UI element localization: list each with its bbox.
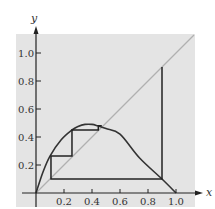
y-tick-label: 0.6 bbox=[18, 104, 34, 115]
y-tick-label: 1.0 bbox=[18, 48, 34, 59]
x-axis-label: x bbox=[206, 186, 213, 199]
y-tick-label: 0.2 bbox=[18, 160, 34, 171]
x-tick-label: 0.6 bbox=[112, 196, 128, 207]
x-axis-arrow-icon bbox=[195, 191, 203, 196]
cobweb-chart: y x 0.2 0.4 0.6 0.8 1.0 0.2 0.4 0.6 0.8 … bbox=[0, 0, 215, 209]
y-tick-label: 0.8 bbox=[18, 76, 34, 87]
plot-background bbox=[16, 34, 195, 207]
x-tick-label: 1.0 bbox=[168, 196, 184, 207]
x-tick-label: 0.4 bbox=[84, 196, 100, 207]
y-tick-label: 0.4 bbox=[18, 132, 34, 143]
y-axis-label: y bbox=[30, 12, 38, 25]
x-tick-label: 0.8 bbox=[140, 196, 156, 207]
y-axis-arrow-icon bbox=[34, 26, 39, 34]
x-tick-label: 0.2 bbox=[56, 196, 72, 207]
